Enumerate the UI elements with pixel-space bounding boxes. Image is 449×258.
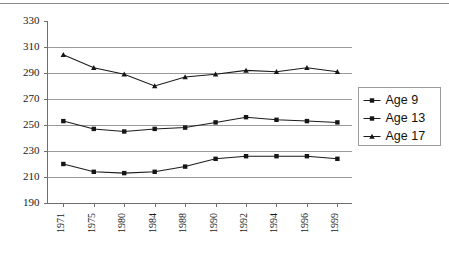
y-tick-label: 330 <box>23 14 40 26</box>
data-point <box>335 157 339 161</box>
data-point <box>152 127 156 131</box>
legend-swatch-marker <box>370 98 374 102</box>
y-tick-label: 210 <box>23 170 40 182</box>
x-tick-label: 1988 <box>177 213 188 233</box>
legend-swatch-marker <box>370 116 374 120</box>
series-line <box>63 55 337 86</box>
y-tick-label: 290 <box>23 66 40 78</box>
line-chart: 190210230250270290310330 197119751980198… <box>0 0 449 258</box>
legend-label: Age 17 <box>386 129 426 143</box>
x-tick-label: 1994 <box>268 213 279 233</box>
data-point <box>305 119 309 123</box>
legend-label: Age 9 <box>386 93 419 107</box>
data-point <box>244 115 248 119</box>
x-tick-label: 1992 <box>238 213 249 233</box>
series-age-17 <box>61 52 340 88</box>
data-point <box>152 170 156 174</box>
data-point <box>183 164 187 168</box>
x-tick-label: 1999 <box>329 213 340 233</box>
chart-legend: Age 9Age 13Age 17 <box>359 88 441 146</box>
legend-label: Age 13 <box>386 111 426 125</box>
chart-canvas: 190210230250270290310330 197119751980198… <box>0 0 449 258</box>
data-point <box>61 119 65 123</box>
data-point <box>122 129 126 133</box>
x-tick-label: 1996 <box>299 213 310 233</box>
y-tick-label: 310 <box>23 40 40 52</box>
x-tick-label: 1971 <box>55 213 66 233</box>
data-point <box>61 52 66 57</box>
data-point <box>305 154 309 158</box>
series-age-13 <box>61 115 339 134</box>
x-axis-labels: 1971197519801984198819901992199419961999 <box>55 213 340 233</box>
data-point <box>213 120 217 124</box>
x-tick-label: 1990 <box>208 213 219 233</box>
x-tick-label: 1984 <box>147 213 158 233</box>
x-tick-label: 1975 <box>86 213 97 233</box>
series-layer <box>61 52 340 175</box>
y-tick-label: 190 <box>23 196 40 208</box>
y-tick-label: 250 <box>23 118 40 130</box>
y-tick-label: 270 <box>23 92 40 104</box>
y-axis-ticks <box>44 22 48 204</box>
x-tick-label: 1980 <box>116 213 127 233</box>
data-point <box>244 154 248 158</box>
data-point <box>122 171 126 175</box>
data-point <box>274 118 278 122</box>
data-point <box>61 162 65 166</box>
data-point <box>92 170 96 174</box>
data-point <box>183 125 187 129</box>
data-point <box>274 154 278 158</box>
series-age-9 <box>61 154 339 175</box>
y-axis-labels: 190210230250270290310330 <box>23 14 40 208</box>
data-point <box>213 157 217 161</box>
series-line <box>63 117 337 131</box>
data-point <box>335 120 339 124</box>
data-point <box>92 127 96 131</box>
y-tick-label: 230 <box>23 144 40 156</box>
series-line <box>63 156 337 173</box>
data-point <box>91 65 96 70</box>
